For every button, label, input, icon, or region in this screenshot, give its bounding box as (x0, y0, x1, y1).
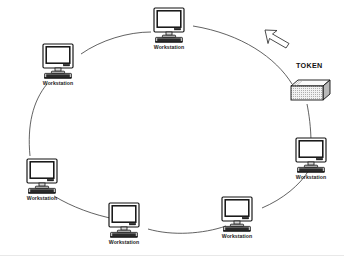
ring-segment-upperleft-to-lowerleft (29, 84, 47, 156)
token-packet-icon (291, 80, 330, 100)
node-workstation-top[interactable]: Workstation (154, 8, 184, 50)
ring-segment-token-to-top (193, 26, 292, 84)
monitor-icon (222, 197, 252, 231)
workstation-label-top: Workstation (154, 44, 184, 50)
workstation-label-bottom-left: Workstation (109, 239, 139, 245)
diagram-canvas: TOKEN Workstation Workstation (0, 0, 344, 262)
node-workstation-lower-left[interactable]: Workstation (27, 159, 57, 201)
ring-segment-top-to-upperleft (81, 32, 151, 54)
node-workstation-upper-left[interactable]: Workstation (43, 44, 73, 86)
workstation-label-right: Workstation (296, 174, 326, 180)
node-workstation-bottom-left[interactable]: Workstation (109, 203, 139, 245)
token-ring-diagram: TOKEN Workstation Workstation (0, 0, 344, 262)
monitor-icon (296, 138, 326, 172)
monitor-icon (109, 203, 139, 237)
workstation-label-bottom-right: Workstation (222, 233, 252, 239)
workstation-label-lower-left: Workstation (27, 195, 57, 201)
node-workstation-bottom-right[interactable]: Workstation (222, 197, 252, 239)
node-workstation-right[interactable]: Workstation (296, 138, 326, 180)
ring-segment-bottomleft-to-bottomright (148, 226, 226, 233)
arrow-up-left-icon (265, 30, 289, 48)
monitor-icon (27, 159, 57, 193)
token-group: TOKEN (265, 30, 330, 100)
monitor-icon (154, 8, 184, 42)
token-label: TOKEN (296, 61, 323, 70)
workstation-label-upper-left: Workstation (43, 80, 73, 86)
monitor-icon (43, 44, 73, 78)
ring-segment-lowerleft-to-bottomleft (54, 196, 115, 219)
ring-segment-right-to-token (307, 104, 311, 143)
